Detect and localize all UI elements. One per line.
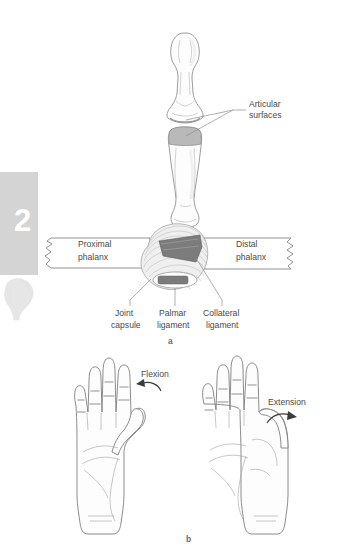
proximal-phalanx-label-line2: phalanx [78,252,109,262]
hand-extension-outline [203,356,288,534]
flexion-arrow [136,379,161,391]
distal-phalanx-label-line1: Distal [236,239,258,249]
collateral-ligament-label-line1: Collateral [203,308,239,318]
collateral-ligament-label-line2: ligament [206,320,239,330]
anatomy-figure: 2 [0,0,339,551]
panel-b-label: b [186,534,191,544]
palmar-ligament-shape [158,276,188,284]
flexion-arrowhead [136,379,145,387]
distal-phalanx-bone [167,33,203,122]
joint-capsule-label-line1: Joint [115,308,134,318]
bones-diagram: Articular surfaces [167,33,282,228]
figure-page: 2 [0,0,339,551]
chapter-number: 2 [14,203,31,238]
panel-a-label: a [168,336,173,346]
articular-surfaces-label-line1: Articular [249,99,281,109]
articular-surfaces-label-line2: surfaces [249,110,281,120]
extension-label: Extension [268,397,306,407]
hand-flexion: Flexion [75,358,169,534]
proximal-phalanx-label-line1: Proximal [78,239,112,249]
extension-arrowhead [287,411,297,420]
distal-phalanx-label-line2: phalanx [236,252,267,262]
joint-capsule-label-line2: capsule [111,320,141,330]
bone-joint-thumbnail [5,278,34,320]
chapter-tab: 2 [0,172,38,275]
joint-cross-section: Proximal phalanx Distal phalanx Joint ca… [45,224,293,330]
flexion-label: Flexion [141,369,169,379]
proximal-phalanx-bone [168,127,201,228]
articular-surface-lower [169,127,201,146]
joint-capsule-leader [130,279,151,306]
palmar-ligament-label-line2: ligament [157,320,190,330]
palmar-ligament-label-line1: Palmar [159,308,186,318]
hand-extension: Extension [203,356,306,534]
